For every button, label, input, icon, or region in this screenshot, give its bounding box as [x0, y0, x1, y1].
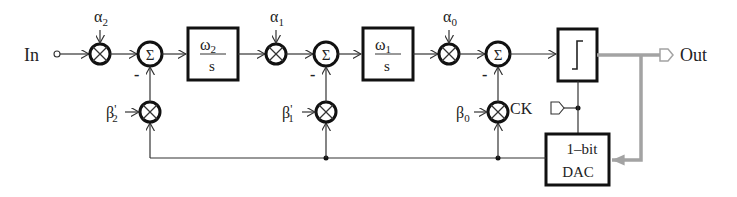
gain-alpha1: α1 [270, 8, 284, 28]
multiplier-alpha0 [439, 44, 459, 64]
svg-text:1–bit: 1–bit [567, 141, 599, 157]
multiplier-beta2 [140, 102, 160, 122]
multiplier-beta1 [316, 102, 336, 122]
summer-2: Σ [314, 42, 338, 66]
gain-beta2: β'2 [106, 102, 118, 124]
minus-sign-3: - [482, 66, 487, 83]
svg-text:s: s [209, 58, 215, 74]
svg-text:Σ: Σ [494, 47, 503, 63]
minus-sign-2: - [310, 66, 315, 83]
svg-text:s: s [384, 58, 390, 74]
input-label: In [24, 45, 39, 65]
multiplier-alpha1 [266, 44, 286, 64]
input-terminal [54, 51, 60, 57]
integrator-omega2: ω2 s [188, 28, 238, 80]
gain-beta1: β'1 [282, 102, 294, 124]
wire-out-to-dac [612, 55, 641, 160]
svg-text:Σ: Σ [146, 47, 155, 63]
gain-beta0: β0 [456, 104, 470, 124]
clock-terminal [551, 102, 564, 114]
svg-text:DAC: DAC [562, 164, 594, 180]
integrator-omega1: ω1 s [363, 28, 413, 80]
multiplier-beta0 [488, 102, 508, 122]
clock-label: CK [510, 100, 533, 117]
summer-3: Σ [486, 42, 510, 66]
quantizer-comparator [558, 29, 597, 81]
dac-1bit: 1–bit DAC [546, 134, 609, 185]
gain-alpha0: α0 [443, 8, 457, 28]
gain-alpha2: α2 [94, 8, 108, 28]
output-label: Out [680, 45, 707, 65]
summer-1: Σ [138, 42, 162, 66]
sigma-delta-block-diagram: In α2 Σ - ω2 s α1 Σ - ω1 [0, 0, 737, 197]
multiplier-alpha2 [90, 44, 110, 64]
output-terminal [660, 49, 673, 61]
minus-sign-1: - [134, 66, 139, 83]
svg-text:Σ: Σ [322, 47, 331, 63]
